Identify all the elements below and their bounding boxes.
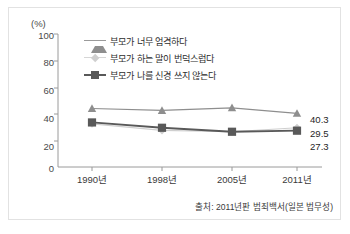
- data-point: [293, 127, 301, 135]
- end-label-fickle: 29.5: [310, 128, 329, 139]
- end-label-strict: 40.3: [310, 114, 329, 125]
- chart-figure: (%) 100 80 60 40 20 0 1990년 1998년 2005년 …: [0, 0, 350, 234]
- data-point: [88, 118, 96, 126]
- legend-label-neglect: 부모가 나를 신경 쓰지 않는다: [110, 68, 216, 82]
- legend-item-fickle[interactable]: 부모가 하는 말이 번덕스럽다: [84, 50, 214, 65]
- series-3: [88, 118, 301, 136]
- data-point: [158, 124, 166, 132]
- square-marker-icon: [84, 69, 106, 80]
- legend-label-fickle: 부모가 하는 말이 번덕스럽다: [110, 51, 214, 65]
- y-axis-ticks: [54, 34, 58, 141]
- data-point: [228, 128, 236, 136]
- x-axis-ticks: [92, 167, 297, 171]
- source-note: 출처: 2011년판 범죄백서(일본 법무성): [195, 200, 333, 212]
- legend-item-strict[interactable]: 부모가 너무 엄격하다: [84, 33, 187, 48]
- diamond-marker-icon: [84, 52, 106, 63]
- legend-item-neglect[interactable]: 부모가 나를 신경 쓰지 않는다: [84, 67, 216, 82]
- end-label-neglect: 27.3: [310, 141, 329, 152]
- legend-label-strict: 부모가 너무 엄격하다: [110, 34, 187, 48]
- series-2: [88, 120, 301, 136]
- series-1: [88, 104, 301, 117]
- series-layer: [88, 104, 301, 136]
- triangle-marker-icon: [84, 35, 106, 46]
